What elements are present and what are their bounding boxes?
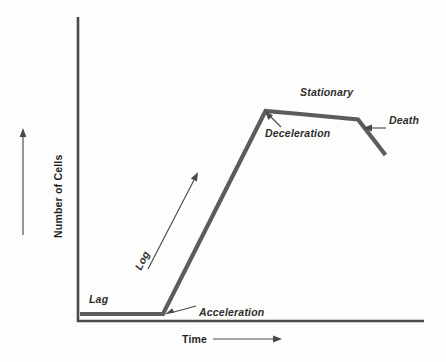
label-stationary: Stationary: [300, 86, 354, 98]
x-axis-label: Time: [182, 333, 207, 345]
y-arrow-head-icon: [20, 128, 27, 137]
growth-curve-line: [80, 111, 386, 314]
log-arrow-shaft: [148, 180, 194, 269]
label-acceleration: Acceleration: [198, 306, 264, 318]
growth-curve-svg: Number of Cells Time Lag Acceleration Lo…: [0, 0, 446, 362]
x-arrow-head-icon: [273, 336, 282, 343]
acceleration-arrow-shaft: [172, 306, 196, 313]
label-death: Death: [389, 114, 419, 126]
growth-curve-figure: Number of Cells Time Lag Acceleration Lo…: [0, 0, 446, 362]
log-arrow-head-icon: [191, 172, 198, 181]
death-annotation: Death: [363, 114, 419, 131]
label-log: Log: [132, 248, 152, 271]
label-deceleration: Deceleration: [265, 127, 330, 139]
acceleration-annotation: Acceleration: [165, 306, 264, 318]
label-lag: Lag: [89, 293, 109, 305]
deceleration-arrow-shaft: [270, 116, 281, 127]
y-axis-direction-arrow: [20, 128, 27, 235]
x-axis-direction-arrow: [213, 336, 282, 343]
log-annotation: Log: [132, 172, 198, 272]
axes-group: [77, 17, 424, 322]
y-axis-label: Number of Cells: [52, 154, 64, 238]
